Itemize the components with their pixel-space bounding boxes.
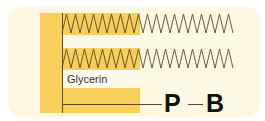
fatty-acid-chain-2 (62, 49, 233, 68)
phosphate-label: P (164, 90, 181, 116)
connection-lines (0, 0, 265, 121)
fatty-acid-chain-1 (62, 14, 233, 33)
base-label: B (206, 90, 224, 116)
